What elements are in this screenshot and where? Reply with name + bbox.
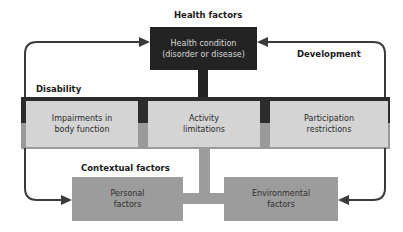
participation-line1: Participation — [304, 113, 354, 124]
participation-line2: restrictions — [304, 124, 354, 135]
health-condition-box: Health condition (disorder or disease) — [150, 27, 257, 70]
disability-label: Disability — [36, 84, 81, 94]
activity-line1: Activity — [183, 113, 225, 124]
personal-line2: factors — [110, 199, 144, 210]
environmental-factors-box: Environmental factors — [224, 177, 338, 221]
arrow-left-icon — [257, 37, 268, 47]
arrow-left-icon — [338, 195, 349, 205]
environmental-line1: Environmental — [252, 188, 310, 199]
development-label: Development — [297, 49, 361, 59]
health-factors-label: Health factors — [174, 10, 242, 20]
participation-box: Participation restrictions — [270, 101, 388, 147]
contextual-factors-label: Contextual factors — [81, 163, 170, 173]
arrow-right-icon — [139, 37, 150, 47]
personal-factors-box: Personal factors — [72, 177, 183, 221]
environmental-line2: factors — [252, 199, 310, 210]
activity-box: Activity limitations — [148, 101, 260, 147]
impairments-line1: Impairments in — [52, 113, 112, 124]
personal-line1: Personal — [110, 188, 144, 199]
impairments-box: Impairments in body function — [26, 101, 138, 147]
impairments-line2: body function — [52, 124, 112, 135]
activity-line2: limitations — [183, 124, 225, 135]
arrow-right-icon — [61, 195, 72, 205]
health-condition-line1: Health condition — [162, 38, 245, 49]
health-condition-line2: (disorder or disease) — [162, 49, 245, 60]
